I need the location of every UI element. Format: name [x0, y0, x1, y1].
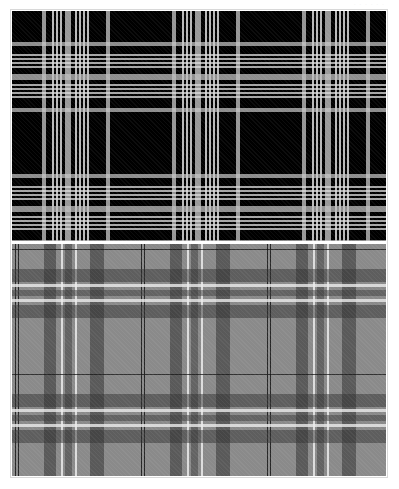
dark-tartan-panel — [12, 11, 386, 241]
faint-caption: · · · · · · — [354, 0, 385, 8]
grey-tartan-panel — [12, 244, 386, 476]
grey-tartan-twill-texture — [12, 244, 386, 476]
tartan-swatch-sheet: · · · · · · — [0, 0, 399, 489]
dark-tartan-twill-texture — [12, 11, 386, 241]
